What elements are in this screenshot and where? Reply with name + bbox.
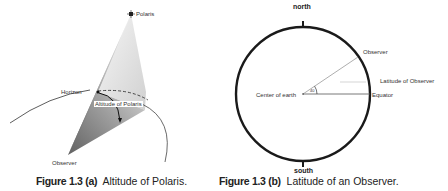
equator-label: Equator <box>372 92 393 98</box>
horizon-label: Horizon <box>61 89 82 95</box>
observer-label-b: Observer <box>363 49 388 55</box>
star-rays <box>127 10 135 18</box>
caption-a: Figure 1.3 (a) Altitude of Polaris. <box>36 176 187 187</box>
polaris-label: Polaris <box>136 11 154 17</box>
caption-b-title: Latitude of an Observer. <box>287 175 399 187</box>
horizon-arc-right <box>142 104 167 162</box>
caption-b-number: Figure 1.3 (b) <box>219 175 281 187</box>
observer-label: Observer <box>52 160 77 166</box>
caption-b: Figure 1.3 (b) Latitude of an Observer. <box>219 176 399 187</box>
figure-latitude-of-observer: north south Observer Latitude of Observe… <box>224 0 448 191</box>
caption-a-number: Figure 1.3 (a) <box>36 175 97 187</box>
latitude-angle-arc <box>315 86 317 94</box>
center-of-earth-label: Center of earth <box>256 92 296 98</box>
latitude-label: Latitude of Observer <box>380 78 434 84</box>
caption-a-title: Altitude of Polaris. <box>102 175 187 187</box>
arc-start-dot <box>97 91 100 94</box>
altitude-label: Altitude of Polaris <box>94 101 143 107</box>
north-label: north <box>293 3 311 10</box>
angle-value-label: 40 <box>310 89 314 93</box>
altitude-diagram <box>0 0 224 191</box>
center-point <box>302 93 304 95</box>
south-label: south <box>294 167 313 174</box>
figure-altitude-of-polaris: Polaris Horizon Altitude of Polaris Obse… <box>0 0 224 191</box>
